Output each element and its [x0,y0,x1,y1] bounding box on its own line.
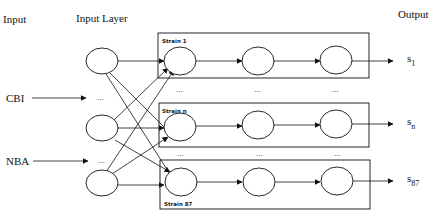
input-label-cbi: CBI [6,92,25,104]
network-diagram: Input Input Layer Output CBI ... NBA ...… [0,0,440,220]
ellipsis-col1-a: ... [176,84,183,94]
strain1-node-2 [242,47,274,75]
output-header: Output [398,8,429,20]
output-label-1: s1 [407,52,415,68]
strainn-node-1 [164,113,196,141]
input-node-3 [86,170,118,196]
edge-i2-s87 [115,140,170,172]
ellipsis-col2-b: ... [256,148,263,158]
input-layer-ellipsis-2: ... [98,155,105,165]
output-label-87: s87 [407,172,419,188]
input-layer-ellipsis-1: ... [97,92,104,102]
edge-i3-s1 [106,70,174,172]
strain87-node-3 [321,167,353,195]
ellipsis-col3-b: ... [334,148,341,158]
strainn-node-3 [320,110,352,138]
ellipsis-col2-a: ... [254,84,261,94]
strain1-node-3 [320,46,352,74]
strain87-node-2 [243,168,275,196]
input-header: Input [3,13,26,25]
input-layer-header: Input Layer [76,12,128,24]
ellipsis-col3-a: ... [332,84,339,94]
edge-i1-sn [110,73,172,135]
input-label-nba: NBA [6,155,29,167]
strain1-node-1 [164,47,196,75]
edge-i2-s1 [112,68,168,122]
ellipsis-col1-b: ... [177,148,184,158]
input-node-2 [86,115,118,141]
strainn-node-2 [242,111,274,139]
strain-label-1: Strain 1 [162,38,187,44]
strain87-node-1 [165,168,197,196]
strain-label-87: Strain 87 [164,201,193,207]
input-node-1 [86,48,118,74]
output-label-n: sn [407,115,415,131]
